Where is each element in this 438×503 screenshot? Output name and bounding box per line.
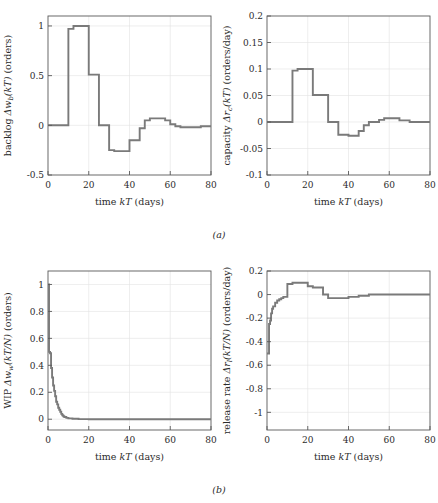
y-tick-label: -0.05: [240, 144, 263, 154]
x-tick-label: 60: [384, 180, 396, 190]
x-tick-label: 0: [264, 435, 270, 445]
x-axis-title: time kT (days): [95, 196, 164, 207]
figure-container: 020406080-0.500.51time kT (days)backlog …: [0, 0, 438, 503]
x-tick-label: 60: [165, 180, 177, 190]
y-tick-label: 0.8: [30, 307, 45, 317]
y-tick-label: 1: [38, 21, 44, 31]
y-tick-label: -0.5: [27, 170, 45, 180]
x-tick-label: 80: [424, 435, 436, 445]
x-axis-title: time kT (days): [314, 196, 383, 207]
y-tick-label: -1: [254, 408, 263, 418]
x-tick-label: 20: [83, 180, 95, 190]
panel-release-rate: 020406080-1-0.8-0.6-0.4-0.200.2time kT (…: [219, 257, 438, 482]
y-axis-title: capacity Δrc(kT) (orders/day): [221, 25, 234, 165]
x-tick-label: 0: [45, 180, 51, 190]
y-axis-title: backlog Δwb(kT) (orders): [2, 35, 15, 156]
x-tick-label: 40: [124, 180, 136, 190]
axis-ticks: 020406080-1-0.8-0.6-0.4-0.200.2: [246, 266, 436, 445]
y-tick-label: 0: [38, 121, 44, 131]
x-tick-label: 0: [45, 435, 51, 445]
panel-wip: 02040608000.20.40.60.81time kT (days)WIP…: [0, 257, 219, 482]
subfigure-caption-b: (b): [0, 484, 438, 495]
y-tick-label: 0: [38, 414, 44, 424]
capacity-plot: 020406080-0.1-0.0500.050.10.150.2time kT…: [219, 2, 438, 227]
grid-lines: [267, 16, 430, 175]
x-tick-label: 80: [205, 435, 217, 445]
x-axis-title: time kT (days): [314, 451, 383, 462]
y-tick-label: 0.6: [30, 334, 45, 344]
x-tick-label: 40: [343, 180, 355, 190]
x-tick-label: 80: [205, 180, 217, 190]
y-tick-label: 0: [257, 290, 263, 300]
x-tick-label: 20: [302, 435, 314, 445]
y-tick-label: -0.2: [246, 313, 263, 323]
y-tick-label: 0.4: [30, 361, 45, 371]
y-axis-title: WIP Δww(kT/N) (orders): [2, 292, 15, 409]
x-tick-label: 40: [124, 435, 136, 445]
y-tick-label: 0.5: [30, 71, 45, 81]
panel-capacity: 020406080-0.1-0.0500.050.10.150.2time kT…: [219, 2, 438, 227]
y-tick-label: 0: [257, 117, 263, 127]
y-tick-label: -0.4: [246, 337, 264, 347]
subfigure-caption-a: (a): [0, 229, 438, 240]
x-tick-label: 0: [264, 180, 270, 190]
x-axis-title: time kT (days): [95, 451, 164, 462]
y-axis-title: release rate Δrl(kT/N) (orders/day): [221, 267, 234, 434]
axis-ticks: 02040608000.20.40.60.81: [30, 280, 217, 445]
y-tick-label: 0.15: [243, 38, 263, 48]
y-tick-label: 0.2: [249, 11, 263, 21]
x-tick-label: 60: [384, 435, 396, 445]
x-tick-label: 20: [83, 435, 95, 445]
y-tick-label: 0.05: [243, 91, 263, 101]
x-tick-label: 80: [424, 180, 436, 190]
y-tick-label: -0.8: [246, 384, 264, 394]
axis-ticks: 020406080-0.1-0.0500.050.10.150.2: [240, 11, 436, 190]
y-tick-label: -0.6: [246, 360, 264, 370]
y-tick-label: 0.2: [249, 266, 263, 276]
axis-ticks: 020406080-0.500.51: [27, 21, 217, 190]
panel-backlog: 020406080-0.500.51time kT (days)backlog …: [0, 2, 219, 227]
wip-plot: 02040608000.20.40.60.81time kT (days)WIP…: [0, 257, 219, 482]
y-tick-label: 1: [38, 280, 44, 290]
y-tick-label: -0.1: [246, 170, 263, 180]
grid-lines: [48, 271, 211, 430]
x-tick-label: 60: [165, 435, 177, 445]
panel-row-a: 020406080-0.500.51time kT (days)backlog …: [0, 2, 438, 227]
release-rate-plot: 020406080-1-0.8-0.6-0.4-0.200.2time kT (…: [219, 257, 438, 482]
y-tick-label: 0.1: [249, 64, 263, 74]
x-tick-label: 40: [343, 435, 355, 445]
panel-row-b: 02040608000.20.40.60.81time kT (days)WIP…: [0, 257, 438, 482]
x-tick-label: 20: [302, 180, 314, 190]
backlog-plot: 020406080-0.500.51time kT (days)backlog …: [0, 2, 219, 227]
y-tick-label: 0.2: [30, 387, 44, 397]
